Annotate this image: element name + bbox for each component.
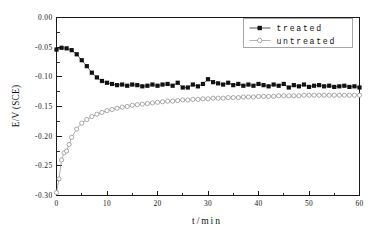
data-point (54, 47, 58, 51)
data-point (90, 114, 94, 118)
data-point (287, 85, 291, 89)
x-tick-label: 50 (305, 199, 313, 208)
y-tick-label: -0.10 (35, 72, 52, 81)
data-point (110, 82, 114, 86)
data-point (95, 75, 99, 79)
data-point (191, 97, 195, 101)
data-point (186, 98, 190, 102)
data-point (221, 96, 225, 100)
data-point (211, 80, 215, 84)
data-point (337, 84, 341, 88)
data-point (302, 82, 306, 86)
data-point (307, 93, 311, 97)
data-point (201, 82, 205, 86)
data-point (221, 82, 225, 86)
data-point (67, 142, 71, 146)
x-axis-tick-labels: 0102030405060 (54, 199, 363, 208)
data-point (140, 84, 144, 88)
y-tick-label: -0.05 (35, 43, 52, 52)
x-tick-label: 60 (355, 199, 363, 208)
data-point (256, 82, 260, 86)
data-point (191, 82, 195, 86)
data-point (357, 85, 361, 89)
data-point (65, 149, 69, 153)
data-point (150, 101, 154, 105)
data-point (65, 46, 69, 50)
data-point (140, 102, 144, 106)
y-tick-label: -0.25 (35, 161, 52, 170)
data-point (110, 107, 114, 111)
data-point (186, 85, 190, 89)
data-point (196, 97, 200, 101)
data-point (155, 100, 159, 104)
data-point (327, 93, 331, 97)
data-point (160, 82, 164, 86)
data-point (90, 71, 94, 75)
data-point (75, 127, 79, 131)
data-point (342, 93, 346, 97)
x-tick-label: 10 (103, 199, 111, 208)
data-point (95, 112, 99, 116)
data-point (317, 93, 321, 97)
data-point (145, 84, 149, 88)
data-point (342, 84, 346, 88)
data-point (196, 84, 200, 88)
data-point (54, 190, 58, 194)
x-axis-ticks (57, 191, 360, 196)
data-point (160, 100, 164, 104)
x-tick-label: 0 (54, 199, 58, 208)
data-point (352, 84, 356, 88)
data-point (267, 84, 271, 88)
data-point (80, 58, 84, 62)
data-point (171, 99, 175, 103)
legend-marker-treated (258, 26, 262, 30)
data-point (176, 98, 180, 102)
data-point (171, 84, 175, 88)
data-point (135, 83, 139, 87)
y-tick-label: -0.20 (35, 132, 52, 141)
data-point (297, 94, 301, 98)
data-point (347, 93, 351, 97)
data-point (312, 93, 316, 97)
data-point (226, 81, 230, 85)
data-point (70, 48, 74, 52)
data-point (327, 84, 331, 88)
data-point (332, 93, 336, 97)
data-point (312, 84, 316, 88)
data-point (352, 93, 356, 97)
data-point (125, 104, 129, 108)
data-point (272, 82, 276, 86)
data-point (317, 83, 321, 87)
legend-label-untreated: untreated (277, 37, 337, 46)
y-tick-label: 0.00 (38, 13, 53, 22)
data-point (85, 117, 89, 121)
data-point (125, 84, 129, 88)
data-point (236, 96, 240, 100)
data-point (135, 103, 139, 107)
data-point (357, 93, 361, 97)
data-point (70, 135, 74, 139)
data-point (231, 83, 235, 87)
data-point (115, 83, 119, 87)
y-tick-label: -0.15 (35, 102, 52, 111)
data-point (267, 94, 271, 98)
y-axis-tick-labels: 0.00-0.05-0.10-0.15-0.20-0.25-0.30 (35, 13, 52, 200)
data-point (251, 95, 255, 99)
legend-marker-untreated (258, 38, 262, 42)
data-point (120, 105, 124, 109)
data-point (282, 82, 286, 86)
data-point (241, 95, 245, 99)
data-point (105, 109, 109, 113)
data-point (201, 97, 205, 101)
data-point (100, 110, 104, 114)
data-point (216, 81, 220, 85)
data-point (181, 98, 185, 102)
data-point (332, 85, 336, 89)
data-point (115, 106, 119, 110)
data-point (166, 82, 170, 86)
data-point (277, 84, 281, 88)
data-point (246, 82, 250, 86)
data-point (307, 85, 311, 89)
data-point (236, 82, 240, 86)
data-point (80, 121, 84, 125)
